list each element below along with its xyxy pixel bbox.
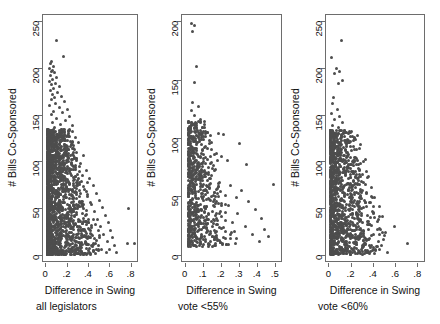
data-point	[97, 244, 100, 247]
data-point	[357, 163, 360, 166]
data-point	[72, 154, 75, 157]
data-point	[92, 242, 95, 245]
data-point	[63, 143, 66, 146]
data-point	[46, 221, 49, 224]
data-point	[127, 207, 130, 210]
data-point	[60, 245, 63, 248]
data-point	[338, 115, 341, 118]
data-point	[74, 166, 77, 169]
data-point	[374, 249, 377, 252]
data-point	[190, 175, 193, 178]
data-point	[48, 240, 51, 243]
data-point	[65, 150, 68, 153]
data-point	[191, 101, 194, 104]
x-axis-tick	[239, 263, 240, 267]
plot-area	[326, 15, 424, 261]
data-point	[52, 246, 55, 249]
data-point	[366, 176, 369, 179]
data-point	[94, 252, 97, 255]
data-point	[332, 131, 335, 134]
data-point	[79, 162, 82, 165]
data-point	[354, 236, 357, 239]
data-point	[351, 208, 354, 211]
data-point	[70, 231, 73, 234]
data-point	[198, 219, 201, 222]
data-point	[340, 39, 343, 42]
x-axis-tick-label: .6	[383, 269, 407, 279]
data-point	[71, 158, 74, 161]
data-point	[92, 218, 95, 221]
data-point	[192, 178, 195, 181]
data-point	[62, 55, 65, 58]
data-point	[67, 190, 70, 193]
data-point	[229, 184, 232, 187]
data-point	[378, 233, 381, 236]
data-point	[334, 251, 337, 254]
data-point	[329, 181, 332, 184]
data-point	[193, 231, 196, 234]
data-point	[54, 102, 57, 105]
data-point	[71, 130, 74, 133]
data-point	[85, 209, 88, 212]
data-point	[369, 216, 372, 219]
y-axis-tick-label: 100	[170, 138, 180, 158]
y-axis-tick-label: 50	[314, 208, 324, 228]
data-point	[191, 198, 194, 201]
data-point	[78, 165, 81, 168]
data-point	[46, 181, 49, 184]
data-point	[68, 115, 71, 118]
data-point	[378, 205, 381, 208]
data-point	[364, 158, 367, 161]
data-point	[211, 225, 214, 228]
data-point	[336, 192, 339, 195]
data-point	[213, 205, 216, 208]
data-point	[357, 205, 360, 208]
data-point	[339, 221, 342, 224]
y-axis-tick-label: 50	[170, 196, 180, 216]
data-point	[101, 206, 104, 209]
data-point	[224, 211, 227, 214]
data-point	[82, 154, 85, 157]
data-point	[377, 218, 380, 221]
x-axis-tick	[395, 263, 396, 267]
data-point	[331, 185, 334, 188]
data-point	[63, 130, 66, 133]
data-point	[217, 182, 220, 185]
data-point	[347, 159, 350, 162]
data-point	[331, 124, 334, 127]
data-point	[365, 250, 368, 253]
data-point	[215, 230, 218, 233]
data-point	[384, 231, 387, 234]
data-point	[78, 170, 81, 173]
data-point	[93, 210, 96, 213]
data-point	[187, 164, 190, 167]
data-point	[214, 244, 217, 247]
data-point	[60, 222, 63, 225]
data-point	[367, 228, 370, 231]
data-point	[351, 196, 354, 199]
data-point	[99, 225, 102, 228]
data-point	[334, 145, 337, 148]
panel-sublabel: vote <55%	[178, 300, 228, 312]
x-axis-title: Difference in Swing	[330, 284, 420, 296]
data-point	[64, 189, 67, 192]
data-point	[329, 172, 332, 175]
data-point	[352, 172, 355, 175]
data-point	[365, 205, 368, 208]
data-point	[342, 159, 345, 162]
y-axis-tick-label: 200	[31, 68, 41, 88]
data-point	[211, 210, 214, 213]
panel-sublabel: vote <60%	[318, 300, 368, 312]
data-point	[58, 158, 61, 161]
data-point	[338, 224, 341, 227]
data-point	[341, 121, 344, 124]
data-point	[210, 148, 213, 151]
data-point	[199, 185, 202, 188]
data-point	[349, 237, 352, 240]
data-point	[203, 206, 206, 209]
data-point	[54, 138, 57, 141]
y-axis-tick-label: 150	[31, 114, 41, 134]
data-point	[272, 183, 275, 186]
data-point	[195, 183, 198, 186]
data-point	[229, 233, 232, 236]
